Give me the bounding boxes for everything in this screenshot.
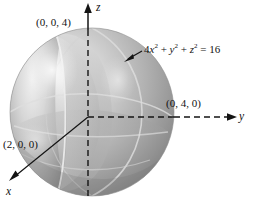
label-point-x: (2, 0, 0) — [3, 139, 38, 150]
ellipsoid-figure: (0, 0, 4) (0, 4, 0) (2, 0, 0) 4x2 + y2 +… — [0, 0, 256, 202]
highlight-upper-left — [26, 40, 78, 100]
y-axis-arrowhead — [227, 113, 237, 121]
figure-canvas — [0, 0, 256, 202]
eq-y-exponent: 2 — [175, 42, 179, 50]
axis-label-z: z — [96, 2, 100, 14]
axis-label-x: x — [6, 186, 11, 198]
label-point-y: (0, 4, 0) — [166, 98, 201, 109]
eq-z-exponent: 2 — [194, 42, 198, 50]
eq-plus-1: + — [161, 43, 167, 55]
eq-plus-2: + — [181, 43, 187, 55]
label-equation: 4x2 + y2 + z2 = 16 — [144, 44, 220, 55]
x-axis-arrowhead — [9, 171, 19, 182]
axis-label-y: y — [239, 111, 244, 123]
z-axis-arrowhead — [84, 3, 92, 13]
highlight-upper-right — [100, 56, 136, 104]
eq-x-exponent: 2 — [154, 42, 158, 50]
label-point-z: (0, 0, 4) — [36, 17, 71, 28]
eq-rhs: = 16 — [200, 43, 220, 55]
